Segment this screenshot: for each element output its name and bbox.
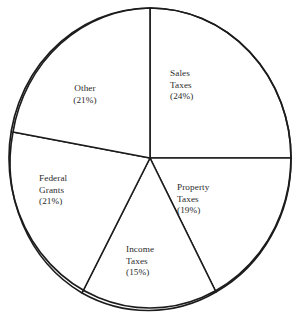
pie-label-other-line1: Other [55, 83, 115, 95]
pie-label-sales-taxes-percent: (24%) [170, 91, 193, 103]
pie-label-other: Other (21%) [55, 83, 115, 106]
pie-label-property-taxes-line2: Taxes [177, 194, 209, 206]
pie-label-other-percent: (21%) [55, 95, 115, 107]
pie-label-property-taxes: Property Taxes (19%) [177, 182, 209, 217]
pie-label-federal-grants-line1: Federal [39, 173, 67, 185]
pie-label-income-taxes-line2: Taxes [126, 256, 154, 268]
pie-label-federal-grants: Federal Grants (21%) [39, 173, 67, 208]
pie-label-sales-taxes: Sales Taxes (24%) [170, 68, 193, 103]
pie-label-property-taxes-line1: Property [177, 182, 209, 194]
pie-label-income-taxes-line1: Income [126, 244, 154, 256]
pie-label-federal-grants-line2: Grants [39, 185, 67, 197]
pie-label-income-taxes-percent: (15%) [126, 267, 154, 279]
pie-label-sales-taxes-line2: Taxes [170, 80, 193, 92]
pie-label-federal-grants-percent: (21%) [39, 196, 67, 208]
pie-label-sales-taxes-line1: Sales [170, 68, 193, 80]
pie-label-property-taxes-percent: (19%) [177, 205, 209, 217]
pie-label-income-taxes: Income Taxes (15%) [126, 244, 154, 279]
pie-chart: Sales Taxes (24%) Property Taxes (19%) I… [0, 0, 301, 317]
